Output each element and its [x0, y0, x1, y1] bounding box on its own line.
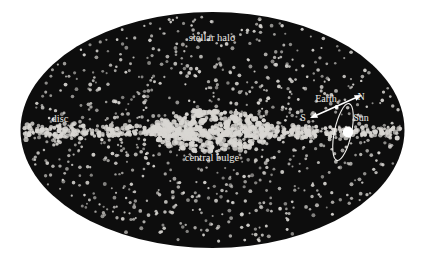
star-point [348, 202, 351, 205]
star-point [137, 137, 140, 140]
label-central-bulge: central bulge [185, 152, 240, 163]
galaxy-diagram-canvas: stellar halo disc central bulge Earth Su… [0, 0, 424, 260]
star-point [171, 190, 175, 194]
star-point [67, 161, 70, 164]
star-point [158, 189, 160, 191]
star-point [240, 226, 243, 229]
star-point [149, 79, 152, 82]
star-point [261, 156, 263, 158]
star-point [27, 124, 31, 128]
star-point [295, 116, 297, 118]
star-point [139, 150, 143, 154]
star-point [240, 156, 243, 159]
star-point [134, 124, 139, 129]
star-point [156, 137, 160, 141]
star-point [254, 227, 257, 230]
star-point [132, 129, 136, 133]
star-point [183, 116, 187, 120]
star-point [259, 167, 262, 170]
star-point [184, 129, 190, 135]
star-point [248, 139, 252, 143]
star-point [243, 180, 247, 184]
star-point [267, 76, 270, 79]
star-point [195, 181, 197, 183]
star-point [59, 89, 62, 92]
star-point [369, 192, 371, 194]
star-point [334, 136, 337, 139]
star-point [114, 127, 119, 132]
star-point [170, 124, 174, 128]
star-point [142, 147, 145, 150]
star-point [136, 144, 138, 146]
star-point [177, 185, 181, 189]
star-point [247, 145, 252, 150]
star-point [188, 100, 190, 102]
star-point [199, 208, 201, 210]
star-point [365, 149, 369, 153]
star-point [132, 218, 135, 221]
star-point [33, 137, 36, 140]
star-point [100, 142, 102, 144]
star-point [285, 107, 287, 109]
star-point [286, 87, 289, 90]
star-point [228, 131, 231, 134]
star-point [363, 172, 367, 176]
star-point [254, 135, 259, 140]
star-point [102, 211, 105, 214]
star-point [47, 183, 49, 185]
star-point [220, 128, 224, 132]
star-point [293, 155, 295, 157]
star-point [295, 69, 297, 71]
star-point [388, 145, 392, 149]
star-point [374, 171, 377, 174]
star-point [193, 226, 196, 229]
star-point [295, 149, 297, 151]
star-point [144, 156, 148, 160]
star-point [383, 141, 386, 144]
star-point [202, 234, 205, 237]
star-point [293, 189, 296, 192]
star-point [53, 132, 58, 137]
star-point [68, 148, 71, 151]
star-point [219, 134, 223, 138]
star-point [265, 189, 268, 192]
star-point [287, 103, 289, 105]
star-point [108, 138, 111, 141]
star-point [171, 132, 177, 138]
star-point [270, 174, 273, 177]
star-point [243, 113, 247, 117]
star-point [259, 227, 261, 229]
star-point [308, 132, 313, 137]
star-point [389, 133, 392, 136]
star-point [85, 181, 89, 185]
star-point [194, 75, 197, 78]
star-point [213, 96, 215, 98]
star-point [301, 28, 304, 31]
star-point [179, 222, 182, 225]
star-point [80, 104, 83, 107]
star-point [148, 39, 152, 43]
star-point [319, 195, 322, 198]
star-point [65, 167, 69, 171]
star-point [133, 36, 136, 39]
star-point [254, 147, 258, 151]
star-point [314, 125, 318, 129]
star-point [240, 212, 244, 216]
star-point [121, 217, 125, 221]
star-point [88, 199, 91, 202]
star-point [330, 191, 333, 194]
star-point [359, 199, 361, 201]
star-point [115, 192, 117, 194]
star-point [366, 105, 369, 108]
star-point [273, 168, 276, 171]
star-point [156, 191, 159, 194]
star-point [89, 105, 92, 108]
star-point [152, 165, 155, 168]
star-point [209, 99, 211, 101]
star-point [226, 81, 229, 84]
star-point [291, 93, 293, 95]
star-point [165, 55, 169, 59]
star-point [279, 122, 282, 125]
star-point [255, 81, 258, 84]
star-point [198, 138, 203, 143]
